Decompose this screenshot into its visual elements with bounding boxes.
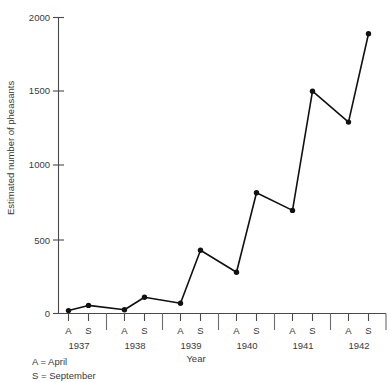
data-point bbox=[86, 303, 91, 308]
data-point bbox=[234, 270, 239, 275]
data-line-pheasants bbox=[69, 34, 369, 311]
y-tick-label-1500: 1500 bbox=[29, 85, 50, 96]
x-tick-label-1942-a: A bbox=[345, 325, 352, 336]
data-point bbox=[290, 208, 295, 213]
legend-september: S = September bbox=[32, 370, 96, 381]
data-point bbox=[346, 119, 351, 124]
data-point bbox=[178, 301, 183, 306]
data-point bbox=[198, 248, 203, 253]
legend-april: A = April bbox=[32, 356, 67, 367]
x-tick-label-1939-a: A bbox=[177, 325, 184, 336]
year-label-1938: 1938 bbox=[124, 340, 145, 351]
year-label-1941: 1941 bbox=[292, 340, 313, 351]
x-tick-label-1940-a: A bbox=[233, 325, 240, 336]
x-tick-label-1937-s: S bbox=[85, 325, 91, 336]
year-label-1939: 1939 bbox=[180, 340, 201, 351]
x-tick-label-1941-s: S bbox=[309, 325, 315, 336]
x-tick-label-1940-s: S bbox=[253, 325, 259, 336]
x-tick-label-1938-a: A bbox=[121, 325, 128, 336]
data-points-group bbox=[66, 31, 371, 313]
data-point bbox=[310, 89, 315, 94]
x-tick-label-1937-a: A bbox=[65, 325, 72, 336]
data-point bbox=[366, 31, 371, 36]
y-tick-label-1000: 1000 bbox=[29, 159, 50, 170]
y-tick-label-500: 500 bbox=[34, 235, 50, 246]
data-point bbox=[254, 190, 259, 195]
x-axis-year-separators bbox=[107, 314, 387, 331]
x-tick-label-1941-a: A bbox=[289, 325, 296, 336]
year-label-1937: 1937 bbox=[68, 340, 89, 351]
x-tick-label-1939-s: S bbox=[197, 325, 203, 336]
y-tick-label-2000: 2000 bbox=[29, 12, 50, 23]
year-label-1942: 1942 bbox=[348, 340, 369, 351]
year-label-1940: 1940 bbox=[236, 340, 257, 351]
x-axis-year-labels: 1937 1938 1939 1940 1941 1942 bbox=[68, 340, 369, 351]
pheasant-population-chart: Estimated number of pheasants 2000 1500 … bbox=[0, 0, 391, 382]
data-point bbox=[122, 307, 127, 312]
x-tick-label-1938-s: S bbox=[141, 325, 147, 336]
chart-svg: Estimated number of pheasants 2000 1500 … bbox=[0, 0, 391, 382]
y-tick-label-0: 0 bbox=[45, 308, 50, 319]
data-point bbox=[142, 295, 147, 300]
x-tick-label-1942-s: S bbox=[365, 325, 371, 336]
x-axis-title: Year bbox=[186, 353, 205, 364]
data-point bbox=[66, 308, 71, 313]
y-axis-title: Estimated number of pheasants bbox=[5, 81, 16, 215]
